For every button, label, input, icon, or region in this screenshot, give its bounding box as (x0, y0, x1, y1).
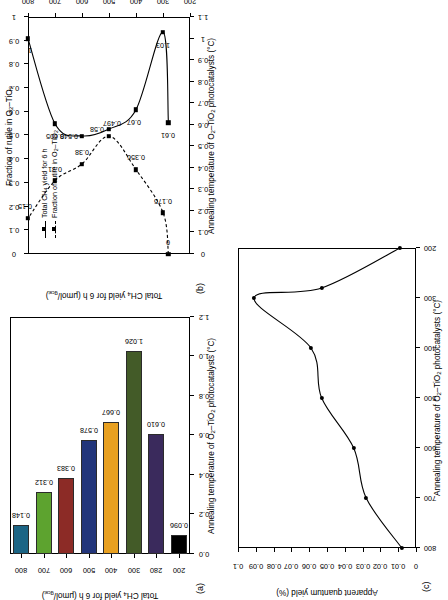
figure-canvas: Total CH4 yield for 6 h (μmol/gcat) Anne… (0, 0, 448, 600)
panel-a-y-tick (190, 514, 194, 515)
panel-a-x-tick-label: 280 (150, 566, 162, 573)
bar-value-label: 0.312 (35, 479, 53, 486)
data-point-label: 0.175 (154, 197, 172, 204)
panel-a-x-tick (179, 554, 180, 558)
panel-a-y-tick (190, 553, 194, 554)
panel-a-x-tick (156, 554, 157, 558)
panel-a-x-tick-label: 200 (173, 566, 185, 573)
panel-a-x-tick-label: 500 (83, 566, 95, 573)
data-point-rutile (26, 216, 30, 220)
panel-a-x-tick-label: 400 (105, 566, 117, 573)
bar-value-label: 0.667 (102, 409, 120, 416)
panel-a-x-tick (111, 554, 112, 558)
bar-value-label: 0.096 (170, 521, 188, 528)
data-point-yield (80, 134, 84, 138)
data-point-rutile (166, 252, 170, 256)
panel-a-x-tick-label: 700 (38, 566, 50, 573)
panel-a-label: (a) (196, 583, 205, 594)
data-point-label: 0.356 (127, 153, 145, 160)
panel-a-x-tick-label: 600 (60, 566, 72, 573)
data-point-yield (161, 30, 165, 34)
bar (36, 492, 52, 554)
data-point-label: 0.67 (127, 118, 141, 125)
data-point-label: 0.61 (161, 131, 175, 138)
data-point-label: 0.58 (90, 125, 104, 132)
bar-value-label: 0.578 (80, 426, 98, 433)
panel-a-x-tick (89, 554, 90, 558)
panel-a-y-tick (190, 474, 194, 475)
panel-a-y-tick (190, 356, 194, 357)
panel-a-y-tick-label: 0.8 (199, 392, 209, 399)
data-point-label: 1.03 (156, 41, 170, 48)
panel-c: Apparent quantum yield (%) Annealing tem… (224, 170, 448, 600)
panel-a: Total CH4 yield for 6 h (μmol/gcat) Anne… (0, 300, 224, 600)
panel-a-y-tick-label: 0.6 (199, 432, 209, 439)
panel-a-y-tick (190, 395, 194, 396)
data-point-yield (166, 120, 170, 124)
data-point-rutile (134, 167, 138, 171)
bar (126, 351, 142, 554)
data-point-label: 0.497 (103, 120, 121, 127)
panel-a-y-axis-label: Total CH4 yield for 6 h (μmol/gcat) (42, 588, 159, 600)
bar-value-label: 0.148 (12, 511, 30, 518)
data-point-rutile (80, 162, 84, 166)
data-point-label: 0.38 (75, 148, 89, 155)
data-point-rutile (107, 134, 111, 138)
data-point-label: 1 (28, 46, 32, 53)
legend-marker-square (42, 227, 46, 231)
data-point-yield (26, 36, 30, 40)
panel-a-y-tick-label: 0.4 (199, 471, 209, 478)
bar (13, 525, 29, 554)
panel-b: Total CH4 yield for 6 h (μmol/gcat) Frac… (0, 0, 224, 300)
panel-a-x-tick (21, 554, 22, 558)
bar-value-label: 1.026 (125, 338, 143, 345)
panel-a-y-tick-label: 0.2 (199, 511, 209, 518)
legend-label-rutile: Fraction of rutile in O2–TiO2 (50, 130, 61, 218)
panel-a-y-tick-label: 1.0 (199, 353, 209, 360)
data-point-label: 0 (166, 238, 170, 245)
legend-marker-square-2 (52, 227, 56, 231)
panel-c-curve (224, 170, 448, 600)
bar-value-label: 0.610 (147, 420, 165, 427)
panel-a-x-tick-label: 300 (128, 566, 140, 573)
bar (103, 422, 119, 554)
bar (171, 535, 187, 554)
data-point-yield (53, 121, 57, 125)
bar (81, 440, 97, 554)
panel-a-x-tick (44, 554, 45, 558)
bar-value-label: 0.383 (57, 465, 75, 472)
bar (148, 434, 164, 554)
panel-a-y-tick (190, 435, 194, 436)
panel-a-y-tick-label: 0.0 (199, 550, 209, 557)
panel-a-x-tick (134, 554, 135, 558)
data-point-rutile (161, 210, 165, 214)
panel-a-y-tick (190, 316, 194, 317)
panel-a-x-tick-label: 800 (15, 566, 27, 573)
panel-a-x-tick (66, 554, 67, 558)
data-point-yield (134, 107, 138, 111)
bar (58, 478, 74, 554)
panel-b-curves (0, 0, 224, 300)
panel-a-y-tick-label: 1.2 (199, 313, 209, 320)
data-point-label: 0.15 (18, 203, 32, 210)
